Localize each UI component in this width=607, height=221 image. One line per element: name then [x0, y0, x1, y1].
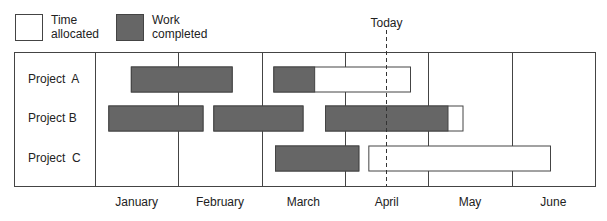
month-label: February	[196, 195, 244, 209]
project-row: Project A	[28, 67, 411, 92]
task-completed-bar	[274, 67, 315, 92]
legend-label-allocated: Time	[51, 13, 78, 27]
month-label: April	[375, 195, 399, 209]
task-completed-bar	[276, 146, 359, 171]
task-completed-bar	[214, 106, 303, 131]
month-label: March	[287, 195, 320, 209]
project-label: Project C	[28, 151, 81, 165]
month-label: January	[115, 195, 158, 209]
task-completed-bar	[109, 106, 203, 131]
legend-swatch-completed	[117, 15, 144, 41]
month-label: June	[540, 195, 566, 209]
legend-label-allocated: allocated	[51, 27, 99, 41]
legend-label-completed: Work	[152, 13, 181, 27]
month-labels: JanuaryFebruaryMarchAprilMayJune	[115, 195, 566, 209]
project-rows: Project AProject BProject C	[28, 67, 551, 171]
month-label: May	[459, 195, 482, 209]
project-label: Project A	[28, 72, 79, 86]
today-label: Today	[370, 16, 402, 30]
legend-label-completed: completed	[152, 27, 207, 41]
legend: TimeallocatedWorkcompleted	[16, 13, 208, 41]
task-allocated-bar	[369, 146, 551, 171]
task-completed-bar	[131, 67, 232, 92]
project-row: Project B	[28, 106, 463, 131]
project-row: Project C	[28, 146, 551, 171]
project-label: Project B	[28, 111, 77, 125]
gantt-chart: TimeallocatedWorkcompleted Project AProj…	[0, 0, 607, 221]
legend-swatch-allocated	[16, 15, 43, 41]
